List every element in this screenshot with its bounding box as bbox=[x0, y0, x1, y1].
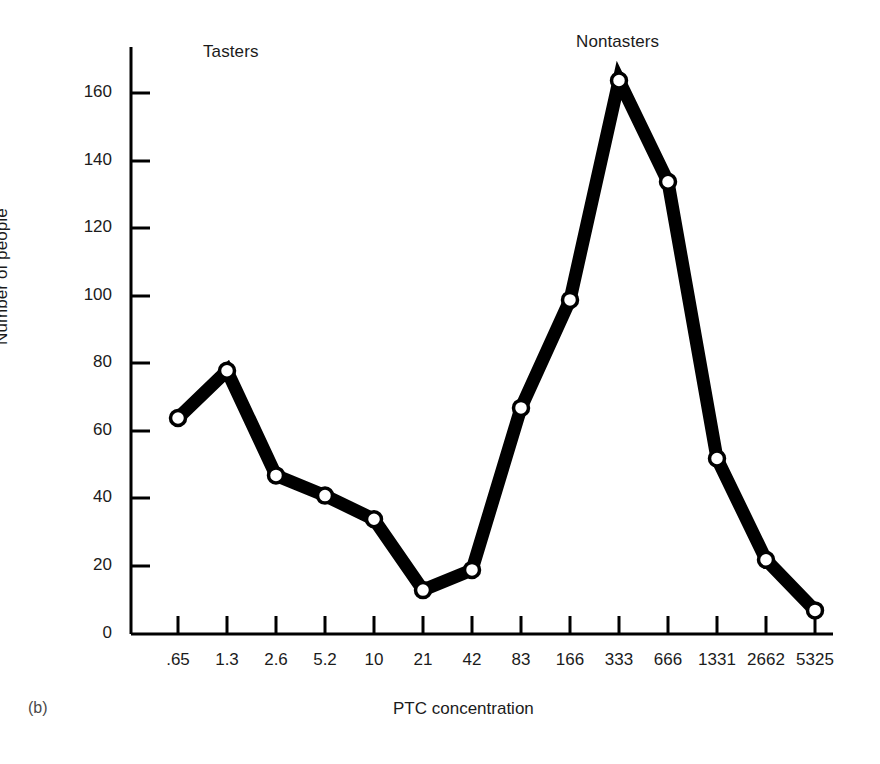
data-point-marker bbox=[514, 400, 529, 415]
data-point-marker bbox=[220, 363, 235, 378]
data-series-number-of-people bbox=[171, 73, 823, 618]
x-axis-ticks bbox=[178, 616, 815, 634]
data-point-marker bbox=[759, 552, 774, 567]
data-point-marker bbox=[612, 73, 627, 88]
annotation-tasters: Tasters bbox=[203, 42, 259, 62]
data-point-marker bbox=[269, 468, 284, 483]
y-tick-label: 120 bbox=[66, 217, 112, 237]
figure-panel-b: Tasters Nontasters PTC concentration Num… bbox=[0, 0, 880, 764]
y-tick-label: 20 bbox=[66, 555, 112, 575]
x-axis-title: PTC concentration bbox=[393, 699, 534, 719]
y-tick-label: 60 bbox=[66, 420, 112, 440]
data-point-marker bbox=[661, 174, 676, 189]
data-point-marker bbox=[710, 451, 725, 466]
data-point-marker bbox=[416, 583, 431, 598]
data-point-marker bbox=[808, 603, 823, 618]
y-tick-label: 140 bbox=[66, 150, 112, 170]
data-point-marker bbox=[318, 488, 333, 503]
panel-letter: (b) bbox=[28, 699, 48, 717]
y-tick-label: 0 bbox=[66, 623, 112, 643]
data-point-marker bbox=[563, 292, 578, 307]
y-tick-label: 80 bbox=[66, 352, 112, 372]
y-tick-label: 40 bbox=[66, 487, 112, 507]
y-tick-label: 160 bbox=[66, 82, 112, 102]
data-point-marker bbox=[171, 411, 186, 426]
data-line bbox=[178, 81, 815, 611]
y-tick-label: 100 bbox=[66, 285, 112, 305]
y-axis-title: Number of people bbox=[0, 208, 12, 345]
y-axis-ticks bbox=[131, 93, 150, 566]
x-tick-label: 5325 bbox=[785, 650, 845, 670]
annotation-nontasters: Nontasters bbox=[576, 32, 659, 52]
data-point-marker bbox=[465, 562, 480, 577]
data-point-marker bbox=[367, 512, 382, 527]
data-markers bbox=[171, 73, 823, 618]
